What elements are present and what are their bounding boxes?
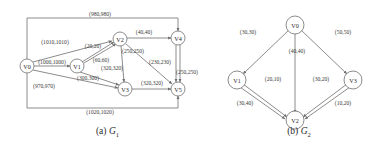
edge-label-v0-v2: (1010,1010) [41, 39, 69, 46]
edge-label-v1-v3: (300,300) [77, 75, 99, 82]
graph-g1-svg: V0 V1 V2 V3 V4 V5 (980,9 [0, 0, 215, 120]
node-v1-label: V1 [73, 63, 81, 70]
caption-g2-subscript: 2 [308, 131, 311, 138]
edge-label-g2-v3-v2-a: (30,20) [313, 76, 329, 83]
figure-container: V0 V1 V2 V3 V4 V5 (980,9 [0, 0, 383, 153]
node-v5[interactable]: V5 [171, 82, 185, 96]
node-v5-label: V5 [174, 86, 182, 93]
node-v0-label: V0 [23, 63, 31, 70]
node-v2[interactable]: V2 [113, 32, 127, 46]
edge-label-v0-v4: (980,980) [89, 11, 111, 18]
edge-label-v0-v3: (970,970) [33, 83, 55, 90]
node-v1[interactable]: V1 [70, 59, 84, 73]
edge-label-v0-v1: (1000,1000) [38, 59, 66, 66]
edge-v0-v5 [27, 73, 178, 108]
caption-g1: (a) G1 [0, 126, 215, 138]
edge-label-v2-v5-a: (250,250) [122, 48, 144, 55]
node-v3-label: V3 [121, 86, 129, 93]
caption-g1-symbol: G [109, 126, 116, 136]
node-g2-v3[interactable]: V3 [344, 71, 362, 89]
edge-label-g2-v0-v3: (50,50) [335, 29, 351, 36]
edge-label-g2-v0-v2: (40,40) [289, 48, 305, 55]
node-g2-v2-label: V2 [291, 117, 299, 124]
edge-label-v1-v2-b: (60,60) [93, 57, 109, 64]
edge-label-g2-v3-v2-b: (10,20) [335, 100, 351, 107]
node-v3[interactable]: V3 [118, 82, 132, 96]
node-v0[interactable]: V0 [20, 59, 34, 73]
edge-label-v2-v4: (40,40) [136, 29, 152, 36]
edge-label-v2-v3: (320,320) [101, 65, 123, 72]
panel-graph-g2: V0 V1 V3 V2 (30,30) (40,40) (50,50) (20,… [215, 0, 383, 153]
node-g2-v3-label: V3 [349, 77, 357, 84]
edge-label-v4-v5: (250,250) [176, 69, 198, 76]
edge-label-g2-v1-v2-a: (20,10) [265, 76, 281, 83]
edge-label-v1-v2-a: (20,20) [85, 43, 101, 50]
edge-label-v3-v5: (320,320) [141, 80, 163, 87]
node-g2-v0-label: V0 [291, 22, 299, 29]
caption-g1-subscript: 1 [116, 131, 119, 138]
edge-label-g2-v0-v1: (30,30) [240, 29, 256, 36]
panel-graph-g1: V0 V1 V2 V3 V4 V5 (980,9 [0, 0, 215, 153]
node-v2-label: V2 [116, 36, 124, 43]
node-v4-label: V4 [174, 35, 182, 42]
caption-g2-symbol: G [301, 126, 308, 136]
node-g2-v1-label: V1 [233, 77, 241, 84]
edge-g2-v0-v1 [243, 30, 289, 74]
node-g2-v1[interactable]: V1 [228, 71, 246, 89]
caption-g2-prefix: (b) [287, 126, 298, 136]
node-g2-v0[interactable]: V0 [286, 16, 304, 34]
graph-g2-svg: V0 V1 V3 V2 (30,30) (40,40) (50,50) (20,… [215, 0, 383, 130]
caption-g1-prefix: (a) [96, 126, 107, 136]
caption-g2: (b) G2 [215, 126, 383, 138]
edge-label-g2-v1-v2-b: (30,40) [237, 100, 253, 107]
edge-g2-v0-v3 [301, 30, 347, 74]
edge-label-v2-v5-b: (230,230) [149, 59, 171, 66]
node-v4[interactable]: V4 [171, 31, 185, 45]
edge-label-v0-v5: (1020,1020) [86, 109, 114, 116]
